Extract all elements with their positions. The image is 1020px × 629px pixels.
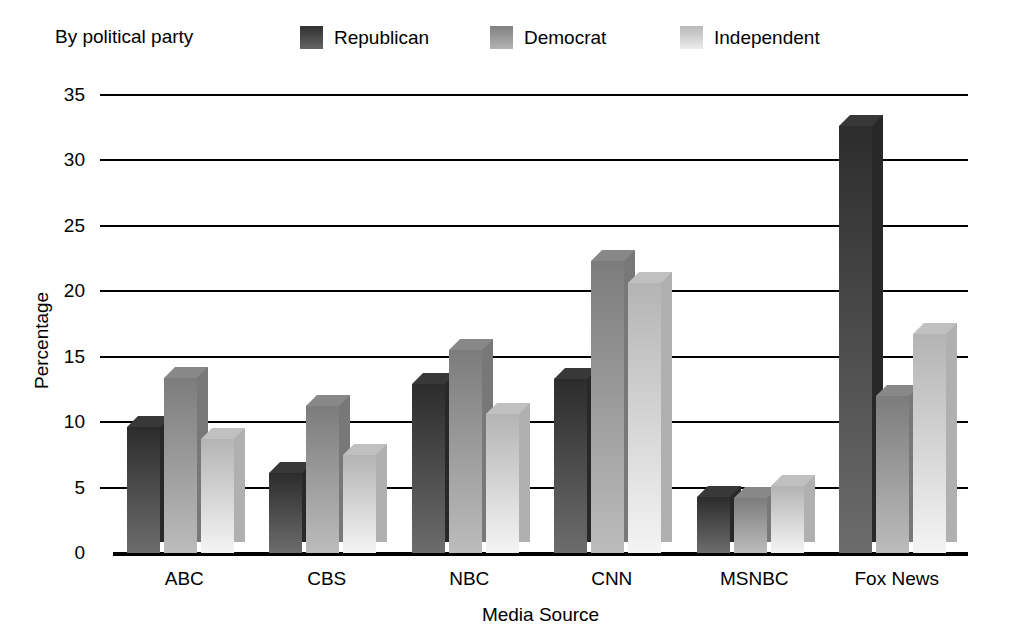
bar-front-face	[697, 497, 730, 553]
bar-front-face	[913, 334, 946, 553]
x-axis-tick-label: NBC	[398, 569, 541, 588]
bar-side-face	[946, 323, 957, 542]
bar-front-face	[876, 396, 909, 553]
gridline	[100, 356, 968, 358]
y-axis-tick-label: 5	[45, 478, 85, 497]
y-axis-tick-label: 0	[45, 543, 85, 562]
y-axis-tick-label: 10	[45, 412, 85, 431]
bar-msnbc-democrat	[734, 498, 767, 553]
bar-side-face	[376, 444, 387, 542]
bar-front-face	[486, 414, 519, 553]
y-axis-tick-label: 30	[45, 150, 85, 169]
bar-cnn-independent	[628, 283, 661, 553]
bar-side-face	[804, 475, 815, 542]
bar-front-face	[201, 439, 234, 553]
bar-nbc-independent	[486, 414, 519, 553]
bar-msnbc-independent	[771, 486, 804, 553]
x-axis-tick-label: CNN	[541, 569, 684, 588]
bar-abc-democrat	[164, 378, 197, 553]
bar-front-face	[343, 455, 376, 553]
bar-abc-independent	[201, 439, 234, 553]
x-axis-tick-label: ABC	[113, 569, 256, 588]
y-axis-tick-label: 25	[45, 216, 85, 235]
bar-msnbc-republican	[697, 497, 730, 553]
plot-area: 05101520253035PercentageABCCBSNBCCNNMSNB…	[0, 0, 1020, 629]
bar-front-face	[412, 384, 445, 553]
bar-front-face	[839, 126, 872, 553]
bar-front-face	[127, 427, 160, 553]
y-axis-tick-label: 35	[45, 85, 85, 104]
bar-front-face	[628, 283, 661, 553]
bar-cbs-independent	[343, 455, 376, 553]
gridline	[100, 421, 968, 423]
bar-side-face	[234, 428, 245, 542]
bar-fox-news-republican	[839, 126, 872, 553]
x-axis-tick-label: Fox News	[826, 569, 969, 588]
gridline	[100, 290, 968, 292]
x-axis-tick-label: MSNBC	[683, 569, 826, 588]
bar-nbc-democrat	[449, 350, 482, 553]
bar-front-face	[164, 378, 197, 553]
bar-fox-news-democrat	[876, 396, 909, 553]
bar-cbs-democrat	[306, 406, 339, 553]
bar-cnn-republican	[554, 379, 587, 553]
bar-front-face	[449, 350, 482, 553]
bar-cbs-republican	[269, 473, 302, 553]
bar-front-face	[554, 379, 587, 553]
bar-front-face	[591, 261, 624, 553]
bar-chart: By political party RepublicanDemocratInd…	[0, 0, 1020, 629]
bar-side-face	[661, 272, 672, 542]
bar-fox-news-independent	[913, 334, 946, 553]
bar-abc-republican	[127, 427, 160, 553]
gridline	[100, 159, 968, 161]
bar-nbc-republican	[412, 384, 445, 553]
bar-front-face	[269, 473, 302, 553]
x-axis-tick-label: CBS	[256, 569, 399, 588]
gridline	[100, 225, 968, 227]
y-tick-mark	[100, 487, 113, 489]
bar-cnn-democrat	[591, 261, 624, 553]
bar-front-face	[306, 406, 339, 553]
x-axis-title: Media Source	[113, 605, 968, 624]
bar-front-face	[734, 498, 767, 553]
bar-side-face	[519, 403, 530, 542]
bar-front-face	[771, 486, 804, 553]
y-axis-title: Percentage	[32, 291, 51, 388]
gridline	[100, 94, 968, 96]
